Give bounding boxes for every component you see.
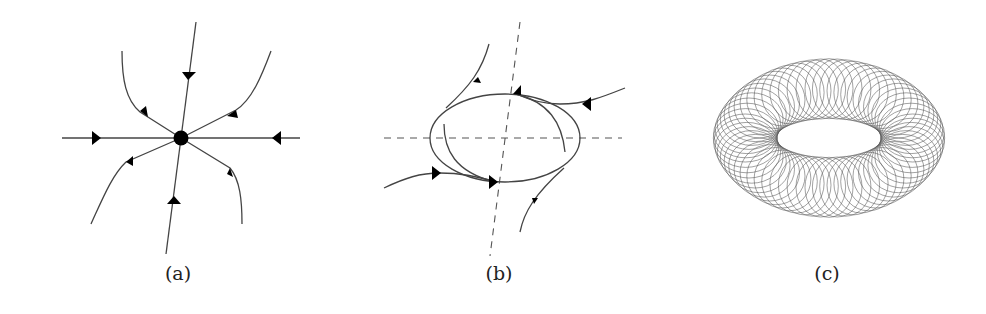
torus-winding xyxy=(720,93,783,146)
trajectory-lower-left xyxy=(91,138,181,224)
panel-a-stable-node xyxy=(62,22,300,254)
trajectory-lower-right xyxy=(181,138,242,224)
arrow-icon xyxy=(167,196,181,204)
caption-a: (a) xyxy=(148,262,208,284)
trajectory-outer-top xyxy=(446,44,489,108)
dashed-slanted-axis xyxy=(490,22,520,256)
arrow-icon xyxy=(92,131,101,145)
arrow-icon xyxy=(582,97,591,111)
torus-winding xyxy=(714,109,778,158)
arrow-icon xyxy=(140,106,148,117)
arrow-icon xyxy=(182,72,196,80)
equilibrium-node xyxy=(174,131,189,146)
arrow-icon xyxy=(513,85,521,95)
panel-b-limit-cycle xyxy=(384,22,625,256)
torus-winding xyxy=(880,109,944,158)
torus-winding xyxy=(714,118,778,167)
arrow-icon xyxy=(489,175,498,189)
torus-winding xyxy=(875,93,938,146)
trajectory-outer-bottom xyxy=(520,168,564,232)
torus-winding xyxy=(720,131,783,184)
arrow-icon xyxy=(227,168,233,177)
torus-winding xyxy=(881,114,945,162)
torus-winding xyxy=(880,118,944,167)
arrow-icon xyxy=(272,131,281,145)
trajectory-inner-right xyxy=(516,94,565,152)
torus-winding xyxy=(875,131,938,184)
panel-c-torus xyxy=(713,59,944,218)
caption-b: (b) xyxy=(469,262,529,284)
trajectory-upper-left xyxy=(122,51,181,138)
caption-c: (c) xyxy=(797,262,857,284)
torus-winding xyxy=(713,114,777,162)
arrow-icon xyxy=(432,166,441,180)
trajectory-outer-right xyxy=(516,88,625,104)
trajectory-upper-right xyxy=(181,51,271,138)
trajectory-outer-left xyxy=(384,173,497,188)
